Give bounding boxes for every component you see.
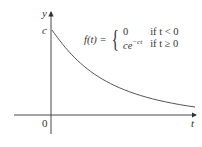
case1-cond: if t < 0 (150, 26, 178, 38)
y-axis-label: y (42, 8, 47, 19)
case1-expr: 0 (123, 26, 142, 38)
function-lhs: f(t) = (84, 34, 107, 45)
c-tick-label: c (42, 25, 47, 36)
x-axis-label: t (191, 118, 194, 129)
cases: 0 if t < 0 ce−ct if t ≥ 0 (123, 26, 179, 52)
case2-cond: if t ≥ 0 (150, 38, 178, 52)
brace-icon: { (111, 26, 118, 52)
plot-area (0, 0, 202, 147)
origin-label: 0 (42, 118, 48, 129)
case2-expr: ce−ct (123, 38, 142, 52)
function-definition: f(t) = { 0 if t < 0 ce−ct if t ≥ 0 (84, 26, 179, 52)
